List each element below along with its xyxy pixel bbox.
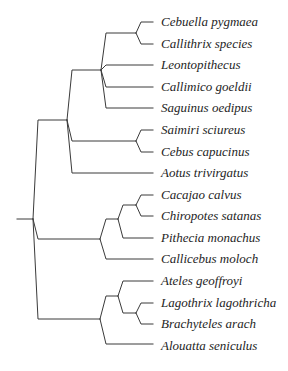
leaf-label-cacajao-calvus: Cacajao calvus [161, 188, 242, 202]
leaf-label-pithecia-monachus: Pithecia monachus [161, 231, 260, 245]
branch-callithrix [136, 33, 153, 44]
leaf-label-callithrix-species: Callithrix species [161, 37, 252, 51]
branch-lagothrix [136, 303, 153, 313]
leaf-label-aotus-trivirgatus: Aotus trivirgatus [161, 166, 248, 180]
branch-leontopithecus [101, 65, 153, 70]
branch-cebus [136, 141, 153, 152]
branch-callimico [101, 70, 153, 87]
branch-root-cebidae [33, 120, 67, 219]
leaf-label-brachyteles-arach: Brachyteles arach [161, 317, 256, 331]
leaf-label-callimico-goeldii: Callimico goeldii [161, 80, 252, 94]
branch-ateles [118, 281, 153, 296]
leaf-label-chiropotes-satanas: Chiropotes satanas [161, 209, 261, 223]
leaf-label-alouatta-seniculus: Alouatta seniculus [161, 339, 257, 353]
branch-cebuella-callithrix [101, 33, 136, 70]
leaf-label-saimiri-sciureus: Saimiri sciureus [161, 123, 245, 137]
branch-brachyteles [136, 313, 153, 324]
branch-callitrichid [67, 70, 101, 120]
branch-saimiri-cebus [67, 120, 136, 141]
leaf-label-saguinus-oedipus: Saguinus oedipus [161, 101, 252, 115]
leaf-label-cebus-capucinus: Cebus capucinus [161, 145, 249, 159]
leaf-label-cebuella-pygmaea: Cebuella pygmaea [161, 15, 258, 29]
leaf-label-leontopithecus: Leontopithecus [161, 58, 240, 72]
branch-saguinus [101, 70, 153, 108]
leaf-label-callicebus-moloch: Callicebus moloch [161, 252, 258, 266]
branch-alouatta [100, 319, 153, 344]
branch-atelinae [100, 296, 118, 319]
branch-aotus [67, 120, 153, 173]
branch-pitheciinae [100, 219, 118, 239]
branch-chiropotes [136, 205, 153, 216]
phylogenetic-tree: Cebuella pygmaea Callithrix species Leon… [0, 0, 288, 371]
branch-cebuella [136, 22, 153, 33]
branch-cacajao-chiropotes [118, 205, 136, 219]
leaf-label-lagothrix-lagothricha: Lagothrix lagothricha [161, 296, 276, 310]
branch-saimiri [136, 130, 153, 141]
branch-pithecia [118, 219, 153, 238]
leaf-label-ateles-geoffroyi: Ateles geoffroyi [161, 274, 242, 288]
branch-lagothrix-brachyteles [118, 296, 136, 313]
branch-root-atelidae [33, 219, 100, 319]
branch-cacajao [136, 195, 153, 205]
branch-callicebus [100, 239, 153, 259]
branch-root-pitheciidae [33, 219, 100, 239]
